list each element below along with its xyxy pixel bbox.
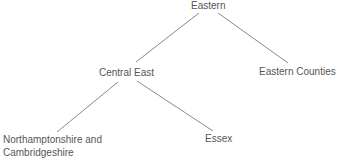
edge-central-east-to-essex: [137, 81, 213, 131]
node-northants-cambs-line2: Cambridgeshire: [3, 147, 102, 160]
edge-eastern-to-eastern-counties: [218, 13, 288, 63]
tree-diagram: Eastern Central East Eastern Counties No…: [0, 0, 338, 165]
edge-eastern-to-central-east: [136, 13, 199, 62]
node-northants-cambs-line1: Northamptonshire and: [3, 134, 102, 147]
node-eastern-counties: Eastern Counties: [259, 66, 336, 79]
edge-central-east-to-northants-cambs: [57, 82, 118, 132]
node-essex: Essex: [205, 133, 232, 146]
node-eastern: Eastern: [191, 0, 225, 13]
node-northants-cambs: Northamptonshire and Cambridgeshire: [3, 134, 102, 159]
node-central-east: Central East: [99, 67, 154, 80]
